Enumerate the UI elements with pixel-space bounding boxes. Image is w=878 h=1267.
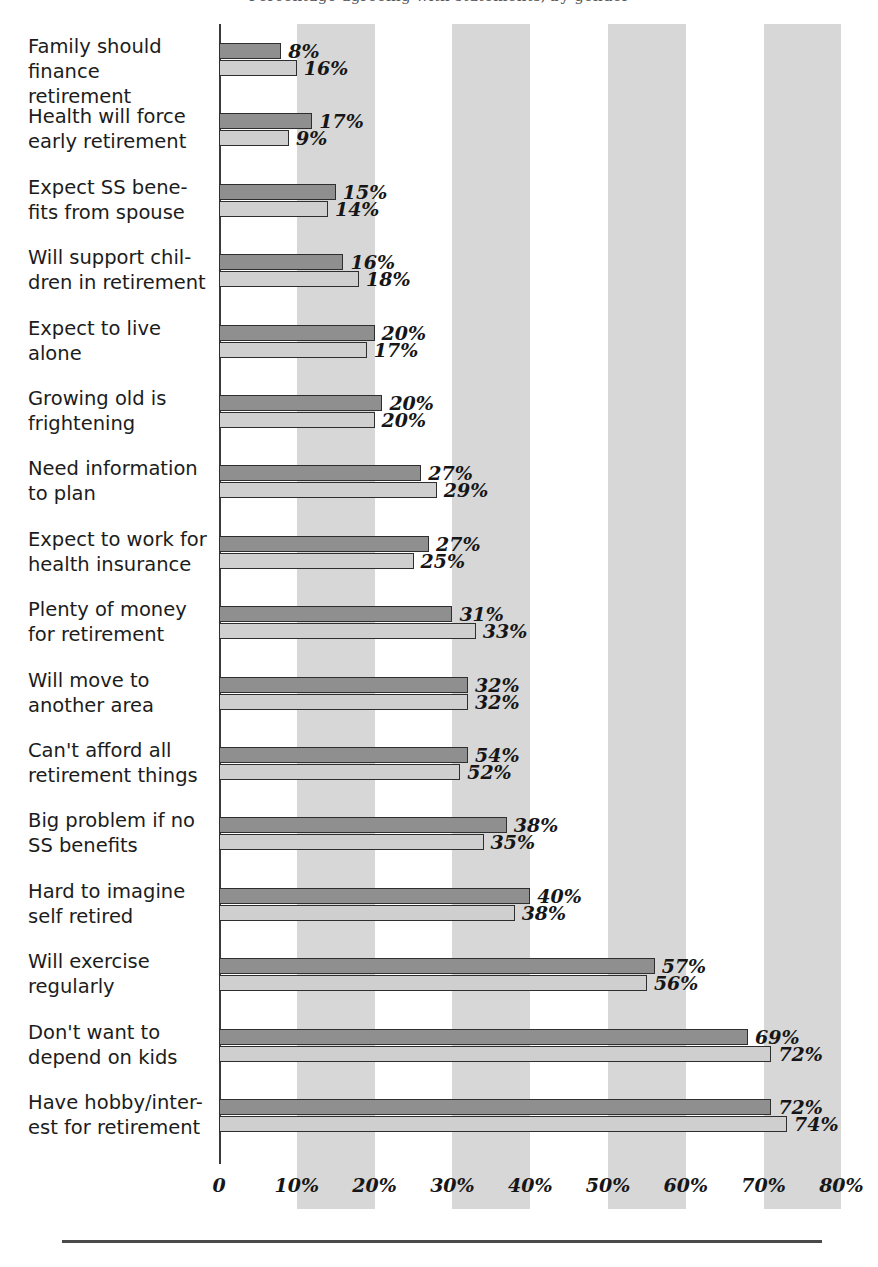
category-label: Expect to live alone [28,316,208,366]
chart-title-strip: Percentage agreeing with statements, by … [0,0,878,16]
bar-series-1-dark [219,536,429,552]
category-label: Don't want to depend on kids [28,1020,208,1070]
bar-series-1-dark [219,606,452,622]
bar-series-2-light [219,905,515,921]
x-axis-tick-label: 80% [819,1174,864,1196]
bar-series-2-light [219,130,289,146]
bar-series-1-dark [219,184,336,200]
bar-series-2-light [219,975,647,991]
category-label: Need information to plan [28,456,208,506]
category-label: Can't afford all retirement things [28,738,208,788]
bar-value-label: 72% [778,1043,823,1065]
x-axis-tick-label: 30% [430,1174,475,1196]
bar-series-1-dark [219,958,655,974]
bar-series-1-dark [219,1099,771,1115]
x-axis-tick-label: 50% [586,1174,631,1196]
category-label: Plenty of money for retirement [28,597,208,647]
bar-series-2-light [219,1116,787,1132]
bottom-rule [62,1240,822,1243]
bar-value-label: 33% [483,620,528,642]
bar-series-2-light [219,60,297,76]
bar-series-2-light [219,482,437,498]
bar-series-2-light [219,201,328,217]
category-label: Have hobby/inter- est for retirement [28,1090,208,1140]
x-axis-tick-label: 20% [352,1174,397,1196]
bar-value-label: 9% [296,127,327,149]
bar-series-2-light [219,834,484,850]
category-label: Expect to work for health insurance [28,527,208,577]
bar-series-1-dark [219,465,421,481]
bar-value-label: 74% [794,1113,839,1135]
bar-value-label: 38% [522,902,567,924]
plot-area: 8%16%17%9%15%14%16%18%20%17%20%20%27%29%… [206,24,878,1184]
horizontal-bar-chart: Family should finance retirementHealth w… [0,24,878,1204]
bar-series-1-dark [219,395,382,411]
bar-value-label: 32% [475,691,520,713]
category-label: Big problem if no SS benefits [28,808,208,858]
bar-value-label: 20% [382,409,427,431]
category-label: Family should finance retirement [28,34,208,109]
category-label: Health will force early retirement [28,104,208,154]
bar-value-label: 35% [491,831,536,853]
bar-value-label: 18% [366,268,411,290]
bar-value-label: 56% [654,972,699,994]
bar-series-2-light [219,342,367,358]
bar-series-2-light [219,694,468,710]
x-axis-tick-label: 60% [664,1174,709,1196]
category-label: Will move to another area [28,668,208,718]
x-axis-tick-label: 10% [275,1174,320,1196]
bar-value-label: 29% [444,479,489,501]
bar-series-2-light [219,764,460,780]
bar-series-1-dark [219,43,281,59]
category-label: Hard to imagine self retired [28,879,208,929]
bar-value-label: 14% [335,198,380,220]
bar-series-1-dark [219,325,375,341]
bar-value-label: 52% [467,761,512,783]
bar-series-1-dark [219,888,530,904]
bar-series-1-dark [219,677,468,693]
category-label-column: Family should finance retirementHealth w… [0,24,206,1184]
bar-series-1-dark [219,254,343,270]
x-axis-tick-label: 0 [212,1174,225,1196]
bar-series-2-light [219,553,414,569]
bar-value-label: 25% [421,550,466,572]
category-label: Growing old is frightening [28,386,208,436]
bar-series-2-light [219,271,359,287]
chart-title: Percentage agreeing with statements, by … [0,0,878,5]
bar-value-label: 17% [374,339,419,361]
x-axis-tick-label: 40% [508,1174,553,1196]
bar-value-label: 16% [304,57,349,79]
bar-series-1-dark [219,747,468,763]
category-label: Expect SS bene- fits from spouse [28,175,208,225]
bar-series-1-dark [219,1029,748,1045]
x-axis-tick-label: 70% [741,1174,786,1196]
category-label: Will support chil- dren in retirement [28,245,208,295]
bar-series-1-dark [219,817,507,833]
bar-series-2-light [219,412,375,428]
bar-series-2-light [219,1046,771,1062]
bar-series-2-light [219,623,476,639]
category-label: Will exercise regularly [28,949,208,999]
